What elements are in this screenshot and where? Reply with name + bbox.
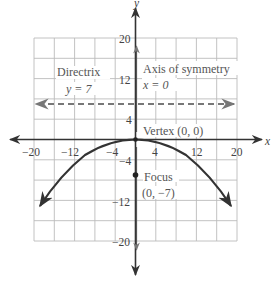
axis-of-symmetry-label: Axis of symmetry [143, 62, 230, 76]
svg-text:20: 20 [231, 146, 243, 158]
svg-text:20: 20 [119, 33, 131, 45]
focus-coordinates: (0, −7) [142, 186, 175, 200]
axis-of-symmetry-equation: x = 0 [142, 78, 168, 92]
focus-label: Focus [144, 170, 173, 184]
focus-point [133, 172, 139, 178]
svg-text:12: 12 [191, 146, 203, 158]
directrix-equation: y = 7 [65, 82, 92, 96]
svg-text:−4: −4 [106, 146, 118, 158]
vertex-point [133, 137, 138, 142]
svg-text:−4: −4 [119, 155, 131, 167]
svg-text:−12: −12 [61, 146, 79, 158]
svg-text:4: 4 [152, 146, 158, 158]
svg-text:−20: −20 [22, 146, 40, 158]
svg-text:−12: −12 [112, 196, 130, 208]
vertex-label: Vertex (0, 0) [143, 124, 203, 138]
parabola-chart: y x −20 −12 −4 4 12 20 20 12 4 −4 −12 −2… [0, 0, 273, 283]
svg-text:4: 4 [126, 114, 132, 126]
x-axis-label: x [264, 135, 271, 147]
directrix-label: Directrix [57, 65, 100, 79]
svg-text:12: 12 [119, 74, 131, 86]
x-tick-labels: −20 −12 −4 4 12 20 [22, 146, 243, 158]
y-axis-label: y [133, 0, 140, 10]
svg-text:−20: −20 [112, 236, 130, 248]
